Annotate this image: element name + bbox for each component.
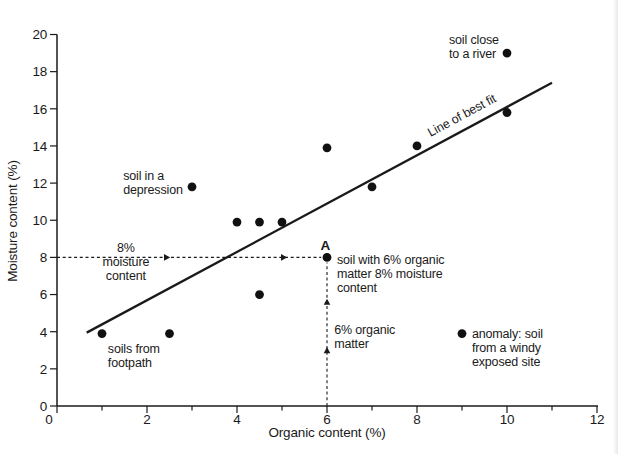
guide-arrow-icon: [281, 254, 287, 261]
6-percent-organic-matter-label: 6% organicmatter: [334, 323, 395, 351]
data-point: [188, 182, 197, 191]
y-axis-tick-label: 4: [40, 325, 48, 340]
data-point: [165, 329, 174, 338]
data-point: [233, 218, 242, 227]
scatter-chart-page: Line of best fit024681012024681012141618…: [0, 0, 618, 454]
guide-arrow-icon: [164, 254, 170, 261]
anomaly-windy-site-label-text: exposed site: [472, 355, 541, 369]
data-point: [503, 108, 512, 117]
data-point: [255, 218, 264, 227]
8-percent-moisture-content-label: 8%moisturecontent: [102, 241, 149, 283]
data-point: [413, 142, 422, 151]
soils-from-footpath-label-text: soils from: [108, 342, 160, 356]
x-axis-title: Organic content (%): [268, 425, 385, 440]
data-point: [98, 329, 107, 338]
y-axis-tick-label: 14: [32, 139, 47, 154]
soils-from-footpath-label: soils fromfootpath: [108, 342, 160, 370]
y-axis-tick-label: 18: [32, 64, 47, 79]
x-axis-tick-label: 12: [590, 412, 605, 427]
data-point: [323, 143, 332, 152]
anomaly-windy-site-label-text: anomaly: soil: [472, 327, 543, 341]
y-axis-tick-label: 2: [40, 362, 47, 377]
soil-in-a-depression-label-text: soil in a: [123, 169, 164, 183]
point-a-label: A: [320, 238, 330, 253]
y-axis-title: Moisture content (%): [5, 160, 20, 282]
y-axis-tick-label: 12: [32, 176, 47, 191]
y-axis-tick-label: 20: [32, 27, 47, 42]
soil-in-a-depression-label-text: depression: [123, 183, 183, 197]
organic-6-guide: [324, 263, 331, 406]
6-percent-organic-matter-label-text: 6% organic: [334, 323, 395, 337]
soil-with-6-percent-organic-label-text: soil with 6% organic: [337, 253, 444, 267]
anomaly-windy-site-label: anomaly: soilfrom a windyexposed site: [472, 327, 543, 369]
anomaly-windy-site-label-text: from a windy: [472, 341, 542, 355]
8-percent-moisture-content-label-text: 8%: [117, 241, 135, 255]
data-point: [278, 218, 287, 227]
8-percent-moisture-content-label-text: moisture: [102, 255, 149, 269]
scatter-plot-svg: Line of best fit024681012024681012141618…: [0, 0, 618, 454]
guide-arrow-icon: [324, 299, 331, 305]
soil-close-to-a-river-label-text: soil close: [449, 33, 499, 47]
8-percent-moisture-content-label-text: content: [106, 269, 147, 283]
soil-moisture-organic-scatter-figure: Line of best fit024681012024681012141618…: [0, 0, 618, 454]
data-point: [368, 182, 377, 191]
soils-from-footpath-label-text: footpath: [108, 356, 152, 370]
soil-with-6-percent-organic-label-text: content: [337, 281, 378, 295]
soil-with-6-percent-organic-label: soil with 6% organicmatter 8% moistureco…: [337, 253, 444, 295]
x-axis-tick-label: 8: [413, 412, 420, 427]
x-axis-tick-label: 10: [500, 412, 515, 427]
line-of-best-fit: [87, 83, 552, 333]
6-percent-organic-matter-label-text: matter: [334, 337, 369, 351]
x-axis-tick-label: 2: [143, 412, 150, 427]
soil-with-6-percent-organic-label-text: matter 8% moisture: [337, 267, 443, 281]
data-point: [458, 329, 467, 338]
y-axis-tick-label: 16: [32, 102, 47, 117]
data-point: [503, 49, 512, 58]
data-point: [255, 290, 264, 299]
y-axis-tick-label: 10: [32, 213, 47, 228]
data-point: [323, 253, 332, 262]
soil-close-to-a-river-label: soil closeto a river: [449, 33, 499, 61]
soil-close-to-a-river-label-text: to a river: [449, 47, 496, 61]
point-a-label-text: A: [320, 238, 330, 253]
y-axis-tick-label: 0: [40, 399, 47, 414]
guide-arrow-icon: [324, 347, 331, 353]
x-axis-tick-label: 4: [233, 412, 241, 427]
y-axis-tick-label: 8: [40, 250, 47, 265]
soil-in-a-depression-label: soil in adepression: [123, 169, 183, 197]
y-axis-tick-label: 6: [40, 287, 47, 302]
axes: 02468101202468101214161820Organic conten…: [5, 27, 605, 439]
moisture-8-guide: [57, 254, 321, 261]
